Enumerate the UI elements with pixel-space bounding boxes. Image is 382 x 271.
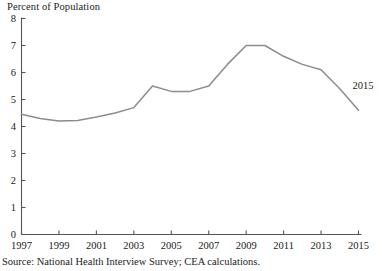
- source-note: Source: National Health Interview Survey…: [2, 256, 260, 267]
- data-series-group: [22, 46, 359, 122]
- plot-area: [0, 0, 382, 271]
- chart-container: Percent of Population 876543210 19971999…: [0, 0, 382, 271]
- data-series-line: [22, 46, 359, 122]
- axis-lines: [22, 18, 362, 235]
